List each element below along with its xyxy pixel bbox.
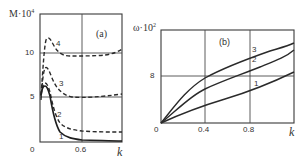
panel-b-xtick-0: 0 [154, 126, 158, 134]
panel-b-xlabel: k [289, 126, 294, 138]
panel-b-xtick-0.8: 0.8 [243, 126, 254, 134]
panel-a-ylabel: M·104 [9, 9, 34, 19]
panel-a-ytick-10: 10 [25, 49, 34, 57]
panel-a-curve-4 [41, 38, 122, 95]
panel-a-curve-label-4: 4 [56, 40, 60, 48]
panel-b-xtick-0.4: 0.4 [198, 126, 209, 134]
panel-b-ylabel-exp: 2 [153, 22, 156, 28]
panel-a-xtick-0.6: 0.6 [75, 146, 86, 154]
panel-a-curve-2 [41, 83, 122, 132]
panel-b-curve-label-1: 1 [254, 80, 258, 88]
panel-b-curve-2 [161, 50, 294, 123]
panel-a [40, 14, 122, 142]
panel-b-ylabel: ω·102 [133, 23, 156, 33]
panel-b-ylabel-base: ω·10 [133, 22, 153, 33]
panel-a-curve-label-3: 3 [59, 80, 63, 88]
panel-a-curve-label-1: 1 [59, 133, 63, 141]
panel-a-ylabel-base: M·10 [9, 8, 31, 19]
panel-b-title: (b) [219, 38, 230, 47]
panel-a-xtick-0: 0 [30, 146, 34, 154]
panel-a-xlabel: k [117, 146, 122, 158]
panel-b-curve-3 [161, 43, 294, 123]
panel-b-curve-label-3: 3 [252, 46, 256, 54]
panel-a-curve-1 [41, 86, 122, 141]
panel-b-curve-label-2: 2 [252, 56, 256, 64]
panel-a-title: (a) [96, 29, 107, 39]
panel-b-ytick-8: 8 [150, 72, 154, 80]
panel-a-ytick-5: 5 [30, 93, 34, 101]
panel-a-curve-3 [41, 67, 122, 100]
panel-a-ylabel-exp: 4 [31, 8, 34, 14]
panel-a-curve-label-2: 2 [57, 111, 61, 119]
